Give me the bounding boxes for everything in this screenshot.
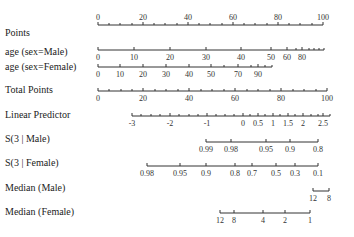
tick-label: 20: [139, 94, 147, 103]
tick-label: 0: [96, 13, 100, 22]
tick-label: 0.5: [271, 169, 281, 178]
tick-label: -1: [204, 119, 211, 128]
tick-label: 0.95: [259, 145, 273, 154]
tick-label: -2: [167, 119, 174, 128]
tick-label: 10: [130, 53, 138, 62]
tick-label: 0: [96, 70, 100, 79]
tick-label: 40: [184, 13, 192, 22]
tick-label: 50: [207, 70, 215, 79]
tick-label: 40: [237, 53, 245, 62]
axis-2: 010203040507090: [96, 64, 272, 79]
tick-label: 0.98: [224, 145, 238, 154]
axis-0: 020406080100: [96, 13, 329, 25]
nomogram-chart: Points age (sex=Male) age (sex=Female) T…: [0, 0, 354, 237]
tick-label: 1.5: [283, 119, 293, 128]
tick-label: 0.95: [173, 169, 187, 178]
tick-label: 0.1: [313, 169, 323, 178]
tick-label: 40: [185, 70, 193, 79]
tick-label: 90: [254, 70, 262, 79]
tick-label: 30: [162, 70, 170, 79]
tick-label: 0: [241, 119, 245, 128]
tick-label: 0.9: [285, 145, 295, 154]
tick-label: 1: [308, 216, 312, 225]
tick-label: 60: [283, 53, 291, 62]
tick-label: 20: [139, 70, 147, 79]
tick-label: 0.8: [230, 169, 240, 178]
tick-label: 100: [317, 13, 329, 22]
tick-label: 0.3: [290, 169, 300, 178]
axis-7: 128: [309, 188, 331, 203]
tick-label: 20: [139, 13, 147, 22]
tick-label: 0.9: [201, 169, 211, 178]
tick-label: 40: [185, 94, 193, 103]
tick-label: 8: [232, 216, 236, 225]
tick-label: 80: [274, 13, 282, 22]
tick-label: 60: [231, 94, 239, 103]
tick-label: 10: [116, 70, 124, 79]
tick-label: 8: [327, 194, 331, 203]
tick-label: 80: [277, 94, 285, 103]
tick-label: 0: [96, 94, 100, 103]
axis-6: 0.980.950.90.80.70.50.30.1: [140, 163, 323, 178]
tick-label: 100: [321, 94, 333, 103]
tick-label: 30: [202, 53, 210, 62]
axis-8: 128421: [216, 210, 312, 225]
tick-label: 2: [301, 119, 305, 128]
axis-3: 020406080100: [96, 88, 333, 103]
tick-label: 0.7: [247, 169, 257, 178]
tick-label: 0.99: [199, 145, 213, 154]
axis-4: -3-2-100.511.522.5: [129, 113, 330, 128]
axis-1: 010203040506080: [96, 47, 324, 62]
tick-label: 2: [283, 216, 287, 225]
tick-label: 0.98: [140, 169, 154, 178]
axis-5: 0.990.980.950.90.8: [199, 139, 323, 154]
tick-label: 4: [261, 216, 265, 225]
tick-label: 1: [271, 119, 275, 128]
tick-label: 60: [229, 13, 237, 22]
tick-label: -3: [129, 119, 136, 128]
tick-label: 70: [234, 70, 242, 79]
tick-label: 20: [166, 53, 174, 62]
tick-label: 2.5: [318, 119, 328, 128]
tick-label: 0.8: [313, 145, 323, 154]
nomogram-axes: 0204060801000102030405060800102030405070…: [0, 0, 354, 237]
tick-label: 12: [309, 194, 317, 203]
tick-label: 50: [267, 53, 275, 62]
tick-label: 12: [216, 216, 224, 225]
tick-label: 80: [298, 53, 306, 62]
tick-label: 0: [96, 53, 100, 62]
tick-label: 0.5: [253, 119, 263, 128]
